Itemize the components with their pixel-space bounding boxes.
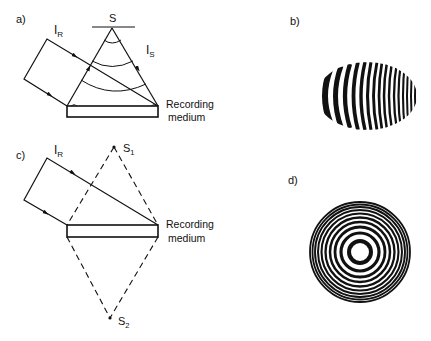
source-label: S xyxy=(109,12,116,24)
reference-beam xyxy=(24,158,158,225)
medium-label-line2: medium xyxy=(168,111,206,123)
reference-beam-label: IR xyxy=(54,143,63,159)
recording-medium xyxy=(67,106,158,117)
panel-c: c) S1 S2 IR Recording medium xyxy=(16,142,214,330)
signal-beam-left-edge xyxy=(67,28,112,106)
panel-a: a) S IS IR Recording medium xyxy=(16,12,214,123)
concentric-rings xyxy=(310,202,410,302)
recording-medium xyxy=(67,225,158,237)
source1-label: S1 xyxy=(123,142,135,157)
signal-beam-right-edge xyxy=(112,28,158,106)
medium-label-line2: medium xyxy=(168,232,206,244)
medium-label-line1: Recording xyxy=(166,218,214,230)
fringe-pattern xyxy=(325,62,417,130)
panel-a-label: a) xyxy=(16,13,26,25)
source2-label: S2 xyxy=(118,315,130,330)
wavefront-arc xyxy=(81,80,146,91)
panel-d-label: d) xyxy=(288,174,298,186)
panel-d: d) xyxy=(288,174,410,302)
reference-beam-label: IR xyxy=(54,23,63,39)
panel-b-label: b) xyxy=(290,15,300,27)
signal-beam-label: IS xyxy=(146,43,155,59)
panel-c-label: c) xyxy=(16,149,25,161)
wavefront-arc xyxy=(104,40,121,43)
panel-b: b) xyxy=(290,15,417,130)
medium-label-line1: Recording xyxy=(166,98,214,110)
holography-diagram: a) S IS IR Recording medium c) S1 S2 xyxy=(0,0,431,341)
wavefront-arc xyxy=(92,61,133,67)
